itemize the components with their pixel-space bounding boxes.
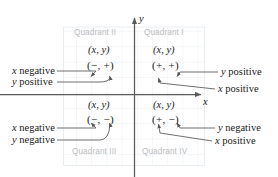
y-axis-label: y xyxy=(139,14,144,25)
quadrant-1-ordered-pair: (x, y) xyxy=(153,45,175,56)
quadrant-4-ordered-pair: (x, y) xyxy=(153,100,175,111)
callout-y-positive-right: y positive xyxy=(221,67,262,78)
quadrant-2-signs: (−, +) xyxy=(87,60,114,71)
callout-x-positive-right: x positive xyxy=(218,84,259,95)
quadrant-3-label: Quadrant III xyxy=(72,148,116,156)
quadrant-3-signs: (−, −) xyxy=(87,114,114,125)
callout-y-negative-right: y negative xyxy=(218,123,261,134)
quadrant-4-label: Quadrant IV xyxy=(142,148,187,156)
callout-x-negative-lower: x negative xyxy=(12,123,55,134)
quadrant-2-label: Quadrant II xyxy=(74,29,116,37)
callout-y-negative-lower: y negative xyxy=(12,135,55,146)
quadrant-2-ordered-pair: (x, y) xyxy=(88,45,110,56)
quadrant-3-ordered-pair: (x, y) xyxy=(88,100,110,111)
quadrant-4-signs: (+, −) xyxy=(152,114,179,125)
quadrant-1-signs: (+, +) xyxy=(152,60,179,71)
callout-x-positive-right-lower: x positive xyxy=(215,136,256,147)
x-axis-label: x xyxy=(203,97,208,108)
callout-x-negative-upper: x negative xyxy=(12,66,55,77)
callout-y-positive-upper: y positive xyxy=(12,77,53,88)
figure-canvas: y x Quadrant II (x, y) (−, +) Quadrant I… xyxy=(0,0,278,177)
quadrant-1-label: Quadrant I xyxy=(144,29,184,37)
